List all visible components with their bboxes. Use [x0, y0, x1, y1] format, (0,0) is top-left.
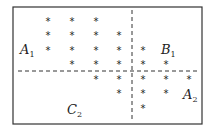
- star-marker-icon: *: [46, 30, 51, 41]
- star-marker-icon: *: [141, 45, 146, 56]
- star-marker-icon: *: [46, 45, 51, 56]
- star-marker-icon: *: [141, 88, 146, 99]
- star-marker-icon: *: [117, 30, 122, 41]
- star-marker-icon: *: [94, 74, 99, 85]
- star-marker-icon: *: [94, 30, 99, 41]
- label-c2: C2: [67, 102, 82, 119]
- star-marker-icon: *: [164, 74, 169, 85]
- star-marker-icon: *: [117, 88, 122, 99]
- diagram-frame: [13, 7, 202, 124]
- star-marker-icon: *: [70, 30, 75, 41]
- star-marker-icon: *: [117, 45, 122, 56]
- star-marker-icon: *: [164, 59, 169, 70]
- star-marker-icon: *: [141, 59, 146, 70]
- star-marker-icon: *: [70, 59, 75, 70]
- label-a1: A1: [19, 42, 34, 59]
- data-points: **************************: [46, 16, 192, 114]
- star-marker-icon: *: [164, 88, 169, 99]
- star-marker-icon: *: [46, 16, 51, 27]
- label-a2: A2: [182, 87, 197, 104]
- star-marker-icon: *: [70, 16, 75, 27]
- star-marker-icon: *: [117, 74, 122, 85]
- star-marker-icon: *: [141, 74, 146, 85]
- star-marker-icon: *: [94, 59, 99, 70]
- star-marker-icon: *: [141, 103, 146, 114]
- partition-diagram: ************************** A1B1A2C2: [0, 0, 213, 133]
- star-marker-icon: *: [94, 45, 99, 56]
- star-marker-icon: *: [187, 74, 192, 85]
- star-marker-icon: *: [117, 59, 122, 70]
- star-marker-icon: *: [94, 16, 99, 27]
- star-marker-icon: *: [70, 45, 75, 56]
- label-b1: B1: [160, 42, 176, 59]
